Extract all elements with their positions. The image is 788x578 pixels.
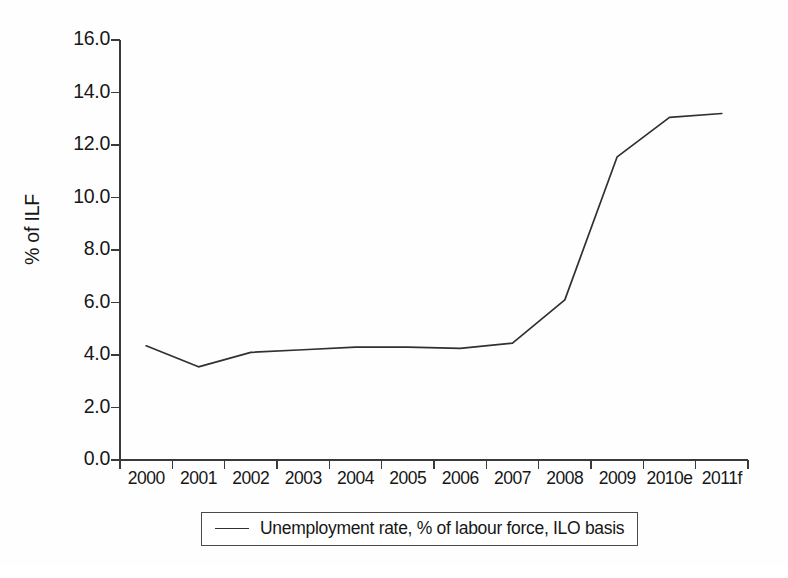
chart-legend: Unemployment rate, % of labour force, IL… bbox=[201, 512, 638, 546]
legend-line-swatch bbox=[215, 528, 249, 529]
chart-canvas bbox=[0, 0, 788, 578]
legend-entry-label: Unemployment rate, % of labour force, IL… bbox=[260, 518, 624, 539]
chart-axes bbox=[111, 40, 748, 469]
chart-series-group bbox=[146, 114, 722, 367]
series-line-unemployment-rate bbox=[146, 114, 722, 367]
chart-figure: % of ILF 0.02.04.06.08.010.012.014.016.0… bbox=[0, 0, 788, 578]
scan-artifact-strip bbox=[0, 566, 788, 578]
